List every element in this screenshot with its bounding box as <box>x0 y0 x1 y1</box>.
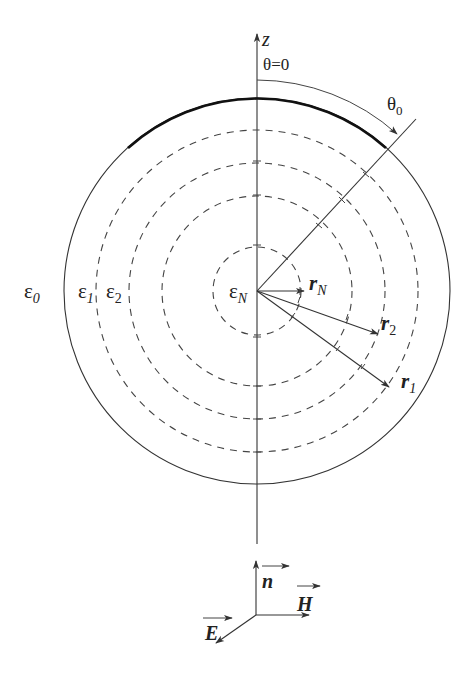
r2-label: r2 <box>381 311 396 338</box>
theta0-subscript: 0 <box>396 103 403 118</box>
epsilonN-subscript: N <box>237 291 248 306</box>
r1-label: r1 <box>401 369 416 396</box>
z-axis-label: z <box>261 28 270 50</box>
epsilon0-subscript: 0 <box>33 291 40 306</box>
theta0-ray <box>257 119 416 291</box>
theta0-symbol: θ <box>387 93 396 114</box>
n-label: n <box>262 570 273 592</box>
epsilon2-symbol: ε <box>106 279 115 303</box>
epsilon0-symbol: ε <box>24 279 33 303</box>
rN-subscript: N <box>316 283 327 298</box>
epsilon2-label: ε2 <box>106 279 122 306</box>
r2-subscript: 2 <box>389 323 396 338</box>
H-label: H <box>296 593 314 615</box>
E-vector <box>216 615 256 643</box>
epsilonN-symbol: ε <box>229 279 238 303</box>
epsilon1-label: ε1 <box>78 279 94 306</box>
epsilon2-subscript: 2 <box>115 291 122 306</box>
layered-sphere-diagram: z θ=0 θ0 ε0 ε1 ε2 εN rN r2 r1 n H E <box>0 0 465 677</box>
E-label: E <box>204 622 218 644</box>
epsilon1-subscript: 1 <box>87 291 94 306</box>
rN-label: rN <box>309 271 327 298</box>
epsilon1-symbol: ε <box>78 279 87 303</box>
epsilonN-label: εN <box>229 279 248 306</box>
theta0-ray-ticks <box>316 172 369 228</box>
r1-subscript: 1 <box>409 381 416 396</box>
theta-angle-arc <box>257 80 397 134</box>
field-triad: n H E <box>203 561 320 644</box>
epsilon0-label: ε0 <box>24 279 40 306</box>
radius-vector-r1 <box>257 291 389 387</box>
theta-zero-label: θ=0 <box>263 55 289 74</box>
theta0-label: θ0 <box>387 93 403 118</box>
